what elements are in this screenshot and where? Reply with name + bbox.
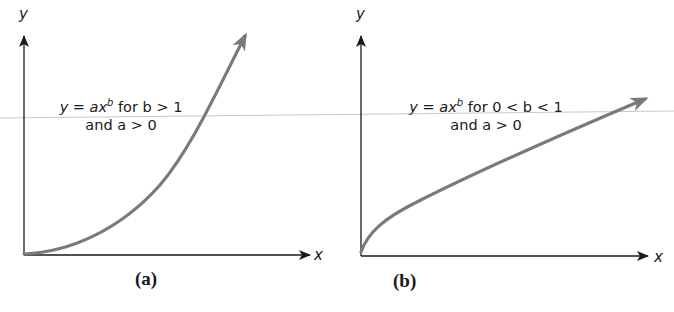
panel-a-annotation: y = axb for b > 1 and a > 0 xyxy=(54,98,188,134)
panel-b-eq-condition: for 0 < b < 1 xyxy=(463,99,563,115)
panel-b-annotation: y = axb for 0 < b < 1 and a > 0 xyxy=(400,98,572,134)
panel-a-eq-pre: y = ax xyxy=(60,99,107,115)
panel-b-annotation-line1: y = axb for 0 < b < 1 xyxy=(400,98,572,116)
panel-a-axes xyxy=(24,36,310,255)
figure-canvas xyxy=(0,0,674,312)
panel-b-annotation-line2: and a > 0 xyxy=(400,116,572,134)
panel-a-caption: (a) xyxy=(135,268,157,290)
panel-a-annotation-line2: and a > 0 xyxy=(54,116,188,134)
panel-a-eq-condition: for b > 1 xyxy=(113,99,182,115)
panel-a-y-label: y xyxy=(19,5,28,23)
panel-b-y-label: y xyxy=(356,5,365,23)
panel-b-caption: (b) xyxy=(393,270,416,292)
panel-a-x-label: x xyxy=(314,246,323,264)
panel-b-axes xyxy=(361,36,648,256)
panel-a-annotation-line1: y = axb for b > 1 xyxy=(54,98,188,116)
panel-b-x-label: x xyxy=(654,248,663,266)
panel-a-curve xyxy=(24,36,245,254)
panel-b-eq-pre: y = ax xyxy=(409,99,456,115)
